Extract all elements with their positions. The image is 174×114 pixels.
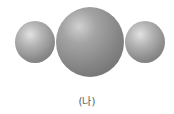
- figure-label: (나): [0, 93, 174, 108]
- center-atom-sphere: [56, 7, 124, 77]
- left-atom-sphere: [15, 21, 55, 63]
- right-atom-sphere: [125, 21, 165, 63]
